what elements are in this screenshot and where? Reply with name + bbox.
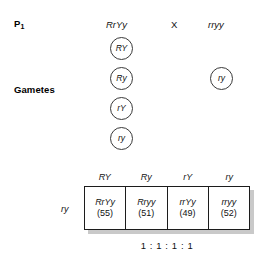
punnett-cell-genotype: RrYy	[95, 198, 115, 207]
gamete-label: rY	[117, 104, 126, 113]
punnett-square-diagram: P1 Gametes RrYy X rryy RY Ry rY ry ry RY…	[0, 0, 268, 270]
gamete-circle-left-2: Ry	[110, 67, 133, 90]
punnett-cell-count: (52)	[221, 209, 237, 218]
punnett-cell-genotype: Rryy	[137, 198, 156, 207]
p1-generation-label: P1	[14, 18, 24, 29]
cross-symbol: X	[171, 19, 177, 30]
punnett-cell-genotype: rrYy	[179, 198, 196, 207]
punnett-column-header: RY	[84, 172, 126, 182]
punnett-column-header: rY	[167, 172, 209, 182]
punnett-cell-count: (49)	[180, 209, 196, 218]
punnett-column-header: Ry	[126, 172, 168, 182]
gamete-label: ry	[218, 74, 225, 83]
gametes-label: Gametes	[14, 84, 55, 95]
punnett-row-header: ry	[61, 204, 69, 214]
punnett-cell: rrYy (49)	[168, 187, 209, 229]
punnett-cell: Rryy (51)	[126, 187, 167, 229]
punnett-table: RrYy (55) Rryy (51) rrYy (49) rryy (52)	[84, 186, 250, 230]
p1-label-subscript: 1	[20, 23, 24, 30]
gamete-label: ry	[118, 134, 125, 143]
punnett-cell-genotype: rryy	[221, 198, 236, 207]
punnett-cell: RrYy (55)	[85, 187, 126, 229]
gamete-circle-left-3: rY	[110, 97, 133, 120]
parent-right-genotype: rryy	[208, 19, 224, 30]
gamete-label: Ry	[116, 74, 126, 83]
gamete-circle-left-1: RY	[110, 37, 133, 60]
punnett-cell-count: (55)	[97, 209, 113, 218]
punnett-column-headers: RY Ry rY ry	[84, 172, 250, 182]
gamete-circle-left-4: ry	[110, 127, 133, 150]
gamete-circle-right-1: ry	[210, 67, 233, 90]
gamete-label: RY	[116, 44, 128, 53]
punnett-cell-count: (51)	[138, 209, 154, 218]
parent-left-genotype: RrYy	[106, 19, 127, 30]
punnett-cell: rryy (52)	[209, 187, 249, 229]
punnett-column-header: ry	[209, 172, 251, 182]
phenotypic-ratio: 1 : 1 : 1 : 1	[84, 240, 250, 251]
